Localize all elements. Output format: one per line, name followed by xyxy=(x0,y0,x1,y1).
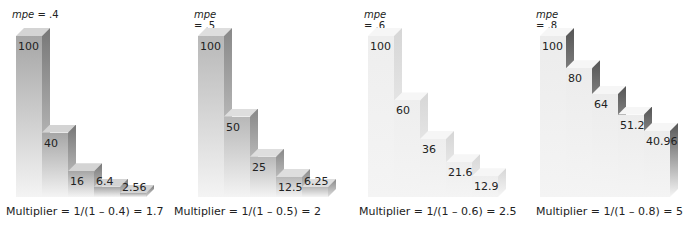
bar: 21.6 xyxy=(446,162,472,197)
bar: 60 xyxy=(394,100,420,197)
mpe-title: mpe = .6 xyxy=(364,9,386,31)
mpe-title: mpe = .8 xyxy=(536,9,558,31)
bar: 6.25 xyxy=(302,187,328,197)
mpe-title: mpe = .5 xyxy=(194,9,216,31)
multiplier-caption: Multiplier = 1/(1 – 0.6) = 2.5 xyxy=(359,205,516,218)
bar: 12.5 xyxy=(276,177,302,197)
chart-panel-4: mpe = .8100806451.240.96Multiplier = 1/(… xyxy=(0,0,170,229)
bar-value-label: 64 xyxy=(594,98,608,111)
bar: 64 xyxy=(592,94,618,197)
bar-value-label: 100 xyxy=(200,40,221,53)
bar-value-label: 51.2 xyxy=(620,119,645,132)
bar: 40.96 xyxy=(644,131,670,197)
bar: 100 xyxy=(368,36,394,197)
multiplier-caption: Multiplier = 1/(1 – 0.5) = 2 xyxy=(174,205,321,218)
bar-value-label: 100 xyxy=(370,40,391,53)
bar: 50 xyxy=(224,117,250,198)
bar-value-label: 12.5 xyxy=(278,181,303,194)
bar-value-label: 60 xyxy=(396,104,410,117)
bar-value-label: 21.6 xyxy=(448,166,473,179)
bar-value-label: 40.96 xyxy=(646,135,678,148)
multiplier-caption: Multiplier = 1/(1 – 0.8) = 5 xyxy=(536,205,683,218)
bar-value-label: 25 xyxy=(252,161,266,174)
bar: 36 xyxy=(420,139,446,197)
bar-value-label: 50 xyxy=(226,121,240,134)
bar-value-label: 80 xyxy=(568,72,582,85)
bar: 25 xyxy=(250,157,276,197)
bar: 100 xyxy=(540,36,566,197)
bar: 80 xyxy=(566,68,592,197)
bar-value-label: 6.25 xyxy=(304,175,329,188)
bar: 12.9 xyxy=(472,176,498,197)
bar-value-label: 100 xyxy=(542,40,563,53)
bar-value-label: 36 xyxy=(422,143,436,156)
bar: 100 xyxy=(198,36,224,197)
bar-value-label: 12.9 xyxy=(474,180,499,193)
bar: 51.2 xyxy=(618,115,644,197)
